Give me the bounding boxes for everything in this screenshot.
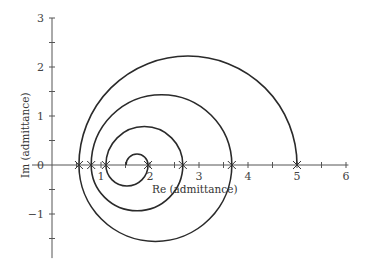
y-tick-label: −1: [28, 208, 44, 221]
y-tick-label: 3: [37, 12, 44, 25]
x-tick-label: 6: [343, 170, 350, 183]
y-tick-label: 2: [37, 61, 44, 74]
spiral-path: [79, 56, 297, 241]
spiral-chart: 3210−1123456 Re (admittance) Im (admitta…: [0, 0, 367, 277]
y-tick-label: 1: [37, 110, 44, 123]
x-axis-label: Re (admittance): [152, 183, 238, 195]
x-tick-label: 4: [245, 170, 252, 183]
x-tick-label: 5: [294, 170, 301, 183]
y-tick-label: 0: [37, 159, 44, 172]
admittance-spiral: [79, 56, 297, 241]
axes: [32, 18, 348, 258]
x-tick-label: 1: [98, 170, 105, 183]
y-axis-label: Im (admittance): [19, 93, 31, 179]
x-tick-label: 3: [196, 170, 203, 183]
x-tick-label: 2: [147, 170, 154, 183]
